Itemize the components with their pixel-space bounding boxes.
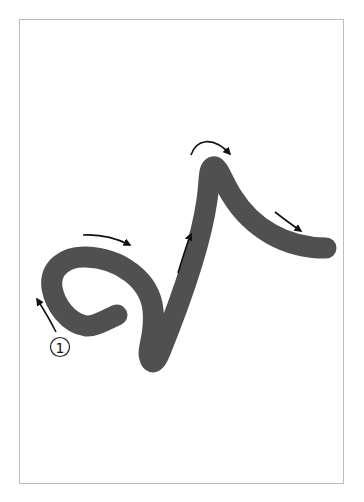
arrow-loop-top-icon <box>83 235 130 245</box>
arrow-apex-icon <box>191 142 230 155</box>
stroke-diagram: 1 <box>0 0 364 502</box>
character-stroke <box>52 167 326 362</box>
start-marker-number: 1 <box>56 340 65 356</box>
